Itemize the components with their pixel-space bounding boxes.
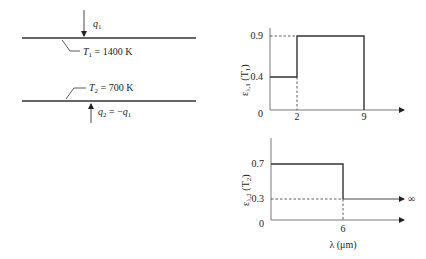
tick-x-9: 9 — [362, 111, 367, 122]
t1-label: T1 = 1400 K — [83, 46, 133, 59]
t2-leader — [66, 88, 86, 99]
t2-label: T2 = 700 K — [89, 82, 134, 95]
tick-y-03: 0.3 — [252, 193, 265, 204]
emissivity-step-line — [271, 164, 343, 199]
tick-y-0: 0 — [259, 218, 264, 229]
tick-x-2: 2 — [295, 111, 300, 122]
q1-label: q1 — [93, 18, 102, 31]
tick-y-04: 0.4 — [251, 71, 264, 82]
infinity-label: ∞ — [408, 193, 415, 204]
parallel-plates: q1 T1 = 1400 K T2 = 700 K q2 = −q1 — [22, 10, 196, 123]
y-axis-label: ελ,2 (T2) — [240, 174, 253, 206]
tick-x-6: 6 — [341, 223, 346, 234]
x-axis-label: λ (μm) — [329, 239, 356, 251]
tick-y-07: 0.7 — [252, 158, 265, 169]
tick-y-0: 0 — [258, 108, 263, 119]
emissivity-chart-1: 0.9 0.4 0 2 9 ελ,1 (T1) — [239, 28, 404, 122]
diagram-canvas: q1 T1 = 1400 K T2 = 700 K q2 = −q1 0.9 0… — [0, 0, 426, 259]
q2-label: q2 = −q1 — [98, 106, 132, 119]
tick-y-09: 0.9 — [251, 30, 264, 41]
t1-leader — [62, 40, 80, 51]
emissivity-step-line — [270, 36, 364, 110]
emissivity-chart-2: 0.7 0.3 0 6 ∞ λ (μm) ελ,2 (T2) — [240, 138, 415, 251]
